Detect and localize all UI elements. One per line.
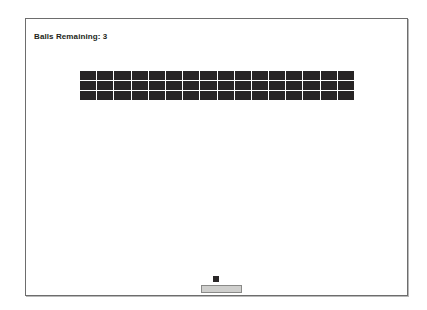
balls-remaining-label: Balls Remaining: 3: [34, 32, 107, 42]
brick: [200, 81, 216, 90]
brick: [338, 81, 354, 90]
brick: [286, 81, 302, 90]
brick: [97, 81, 113, 90]
brick: [166, 91, 182, 100]
brick: [149, 81, 165, 90]
brick: [97, 71, 113, 80]
brick: [218, 71, 234, 80]
brick: [218, 81, 234, 90]
brick: [235, 71, 251, 80]
brick: [132, 81, 148, 90]
brick: [269, 91, 285, 100]
brick: [321, 81, 337, 90]
brick: [235, 81, 251, 90]
game-screen: Balls Remaining: 3: [0, 0, 427, 310]
brick: [252, 71, 268, 80]
brick: [321, 91, 337, 100]
brick: [252, 81, 268, 90]
brick: [132, 91, 148, 100]
ball: [213, 276, 219, 282]
brick: [286, 91, 302, 100]
brick: [218, 91, 234, 100]
brick: [183, 71, 199, 80]
brick: [166, 81, 182, 90]
brick: [303, 91, 319, 100]
brick: [269, 71, 285, 80]
brick: [183, 91, 199, 100]
brick: [200, 71, 216, 80]
brick: [80, 81, 96, 90]
brick: [303, 71, 319, 80]
brick: [97, 91, 113, 100]
brick: [286, 71, 302, 80]
brick: [200, 91, 216, 100]
brick: [80, 91, 96, 100]
game-window-frame: Balls Remaining: 3: [25, 18, 408, 296]
brick: [338, 71, 354, 80]
brick: [132, 71, 148, 80]
paddle-surface: [202, 286, 241, 292]
brick-row: [80, 81, 354, 90]
brick: [269, 81, 285, 90]
brick: [303, 81, 319, 90]
brick: [149, 71, 165, 80]
brick: [114, 91, 130, 100]
brick: [166, 71, 182, 80]
brick: [114, 71, 130, 80]
brick: [80, 71, 96, 80]
brick: [235, 91, 251, 100]
brick-row: [80, 91, 354, 100]
brick: [149, 91, 165, 100]
brick-field: [80, 71, 354, 100]
brick: [321, 71, 337, 80]
brick: [338, 91, 354, 100]
brick-row: [80, 71, 354, 80]
brick: [114, 81, 130, 90]
brick: [183, 81, 199, 90]
brick: [252, 91, 268, 100]
paddle[interactable]: [201, 285, 242, 293]
